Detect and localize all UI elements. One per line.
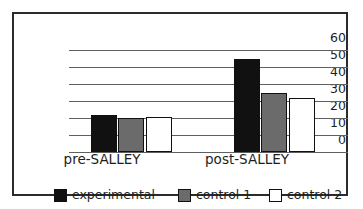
legend-item-control-1: control 1 [178, 187, 251, 203]
chart-frame: 60 50 40 30 20 10 0 pre-SALLEY post-SAL [12, 12, 348, 196]
chart-legend: experimental control 1 control 2 [54, 187, 354, 203]
legend-label-control-2: control 2 [287, 189, 342, 202]
y-tick-label-60: 60 [302, 32, 346, 45]
legend-swatch-control-1-icon [178, 189, 191, 202]
category-label-pre: pre-SALLEY [32, 153, 172, 167]
legend-label-experimental: experimental [72, 189, 155, 202]
legend-item-experimental: experimental [54, 187, 155, 203]
legend-swatch-experimental-icon [54, 189, 67, 202]
gridline-60 [69, 50, 348, 51]
legend-label-control-1: control 1 [196, 189, 251, 202]
category-label-post: post-SALLEY [177, 153, 317, 167]
bar-pre-experimental [91, 115, 117, 152]
gridline-50 [69, 67, 348, 68]
legend-item-control-2: control 2 [269, 187, 342, 203]
bar-pre-control-2 [146, 117, 172, 152]
gridline-40 [69, 84, 348, 85]
bar-pre-control-1 [118, 118, 144, 152]
plot-area [69, 50, 348, 152]
legend-swatch-control-2-icon [269, 189, 282, 202]
bar-post-experimental [234, 59, 260, 153]
bar-chart-figure: 60 50 40 30 20 10 0 pre-SALLEY post-SAL [0, 0, 363, 209]
bar-post-control-2 [289, 98, 315, 152]
bar-post-control-1 [261, 93, 287, 152]
